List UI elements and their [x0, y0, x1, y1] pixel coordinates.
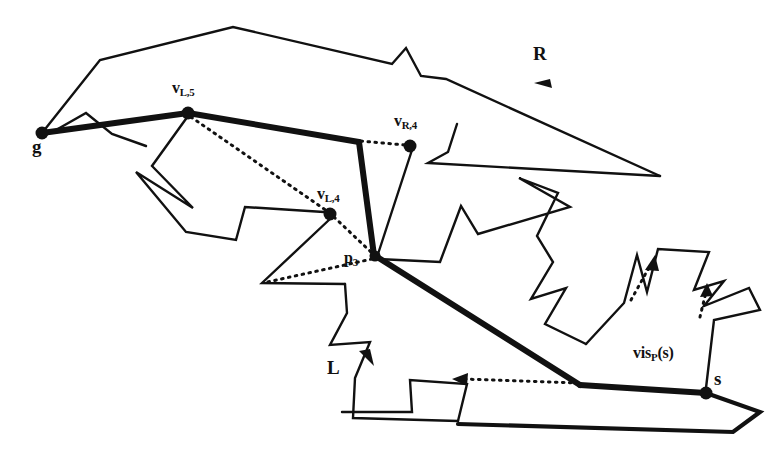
boundary-visibility-spikes — [586, 249, 760, 388]
dotted-arrows-group — [462, 264, 706, 383]
arrowhead-R-direction — [534, 79, 552, 88]
shortest-path-bend-to-s — [580, 385, 706, 393]
figure-canvas: g vL,5 vR,4 vL,4 p3 R L s visP(s) — [0, 0, 768, 451]
label-vis-base: vis — [633, 344, 651, 361]
boundary-L-zigzag — [330, 284, 458, 421]
boundary-vR4-connector — [378, 150, 412, 254]
label-s-text: s — [714, 368, 721, 389]
dotted-arrowheads-group — [452, 255, 713, 386]
vertex-dot-p3 — [370, 251, 381, 262]
dotted-corner-to-vR4 — [361, 141, 405, 145]
label-p3-subscript: 3 — [353, 256, 358, 268]
vertex-dot-vR4 — [404, 140, 417, 153]
vertex-dot-vL5 — [182, 107, 195, 120]
label-p3-base: p — [344, 249, 353, 266]
vertex-dot-vL4 — [324, 208, 337, 221]
shortest-path-vL5-to-corner — [188, 113, 359, 142]
dotted-vL4-to-p3 — [334, 217, 372, 253]
label-chain-L: L — [327, 358, 339, 377]
label-vL4-subscript: L,4 — [325, 192, 340, 204]
boundary-right-return — [428, 124, 660, 176]
label-g-text: g — [32, 136, 41, 157]
geometry-diagram — [0, 0, 768, 451]
boundary-L-bottom — [342, 380, 467, 421]
label-vL5-base: v — [172, 79, 180, 96]
label-vis-suffix: (s) — [657, 344, 673, 361]
label-vR4-base: v — [394, 112, 402, 129]
label-visibility-region: visP(s) — [633, 345, 674, 363]
label-R-text: R — [533, 43, 547, 64]
shortest-path-p3-to-bend — [374, 255, 580, 385]
label-L-text: L — [327, 357, 339, 378]
label-vL4-base: v — [317, 185, 325, 202]
boundary-mid-right-zigzag — [378, 178, 586, 344]
boundary-upper-chain-R — [42, 27, 660, 176]
label-g: g — [32, 137, 41, 156]
shortest-path-g-to-vL5 — [42, 113, 188, 133]
dotted-ray-to-left-wall — [462, 379, 578, 383]
marked-vertices-group — [36, 107, 713, 400]
label-s: s — [714, 369, 721, 388]
bottom-thick-boundary — [458, 393, 760, 432]
label-vertex-vL4: vL,4 — [317, 186, 339, 204]
shortest-path-corner-to-p3 — [359, 142, 374, 255]
label-point-p3: p3 — [344, 250, 358, 268]
label-vertex-vR4: vR,4 — [394, 113, 417, 131]
boundary-left-zigzag — [136, 116, 324, 240]
label-vL5-subscript: L,5 — [180, 86, 195, 98]
label-vR4-subscript: R,4 — [402, 119, 417, 131]
boundary-bottom-strip — [458, 393, 760, 432]
label-chain-R: R — [533, 44, 547, 63]
label-vertex-vL5: vL,5 — [172, 80, 194, 98]
vertex-dot-s — [700, 387, 713, 400]
